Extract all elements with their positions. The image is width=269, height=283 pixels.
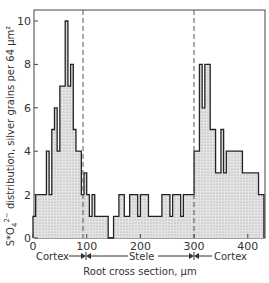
region-labels: Cortex Stele Cortex [36,251,247,262]
y-axis-label: S*O42− distribution, silver grains per 6… [3,26,19,247]
region-label-stele: Stele [129,251,154,262]
region-label-cortex-right: Cortex [214,251,247,262]
region-label-cortex-left: Cortex [36,251,69,262]
histogram-bars [33,21,264,238]
x-tick-label: 300 [184,240,205,253]
svg-text:S*O42− distribution, silver gr: S*O42− distribution, silver grains per 6… [3,26,19,247]
x-tick-label: 100 [76,240,97,253]
x-axis-label: Root cross section, μm [83,266,196,277]
y-axis-ticks: 0246810 [17,15,38,245]
y-tick-label: 6 [24,102,31,115]
y-tick-label: 10 [17,15,31,28]
y-tick-label: 8 [24,58,31,71]
histogram-chart: 0246810 0100200300400 Cortex Stele Corte… [0,0,269,283]
y-tick-label: 4 [24,145,31,158]
y-tick-label: 2 [24,189,31,202]
